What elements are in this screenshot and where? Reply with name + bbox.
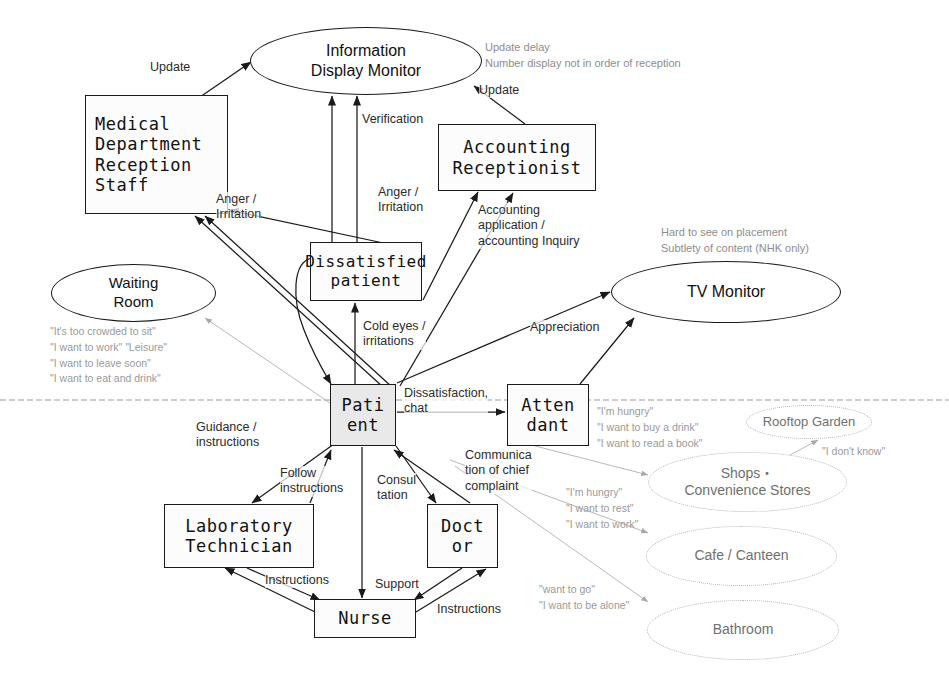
edge-label-instructions-lab: Instructions <box>265 573 329 588</box>
node-label: Information Display Monitor <box>311 41 421 81</box>
quote-dont-know-quote: "I don't know" <box>822 444 885 460</box>
edge-label-guidance-instructions: Guidance / instructions <box>196 420 259 451</box>
edge-label-update-accounting: Update <box>479 83 519 98</box>
node-bathroom[interactable]: Bathroom <box>647 600 839 660</box>
node-accounting-receptionist[interactable]: Accounting Receptionist <box>438 124 596 191</box>
edge-label-dissatisfaction-chat: Dissatisfaction, chat <box>404 386 488 417</box>
node-tv-monitor[interactable]: TV Monitor <box>611 261 841 323</box>
edge-label-accounting-application: Accounting application / accounting Inqu… <box>478 203 579 249</box>
node-patient[interactable]: Pati ent <box>330 384 396 446</box>
node-label: Cafe / Canteen <box>694 547 788 565</box>
edge-label-cold-eyes-irritations: Cold eyes / irritations <box>363 319 426 350</box>
quote-attendant-quotes: "I'm hungry" "I want to buy a drink" "I … <box>597 404 703 451</box>
edge-label-consultation: Consul tation <box>377 473 416 504</box>
node-laboratory-technician[interactable]: Laboratory Technician <box>164 504 314 568</box>
node-label: Shops・ Convenience Stores <box>684 465 810 500</box>
quote-bathroom-quotes: "want to go" "I want to be alone" <box>539 582 629 614</box>
edge-label-update-reception: Update <box>150 60 190 75</box>
node-shops-convenience-stores[interactable]: Shops・ Convenience Stores <box>648 452 847 512</box>
node-label: Dissatisfied patient <box>305 253 427 291</box>
node-medical-department-reception-staff[interactable]: Medical Department Reception Staff <box>85 95 228 214</box>
quote-waiting-room-quotes: "It's too crowded to sit" "I want to wor… <box>50 324 167 387</box>
node-label: Pati ent <box>342 395 385 435</box>
node-label: Waiting Room <box>109 274 158 312</box>
node-label: TV Monitor <box>687 282 765 302</box>
edge-label-communication-chief-complaint: Communica tion of chief complaint <box>465 448 532 494</box>
node-information-display-monitor[interactable]: Information Display Monitor <box>250 27 482 95</box>
node-label: Doct or <box>441 516 484 556</box>
edge-label-appreciation: Appreciation <box>530 320 600 335</box>
edge-label-instructions-doctor: Instructions <box>437 602 501 617</box>
edge-label-follow-instructions: Follow instructions <box>280 466 343 497</box>
diagram-canvas: Information Display MonitorMedical Depar… <box>0 0 949 684</box>
node-dissatisfied-patient[interactable]: Dissatisfied patient <box>310 242 422 301</box>
node-attendant[interactable]: Atten dant <box>507 384 589 446</box>
node-label: Medical Department Reception Staff <box>95 114 202 194</box>
node-rooftop-garden[interactable]: Rooftop Garden <box>746 405 872 439</box>
edge-label-anger-irritation-right: Anger / Irritation <box>378 185 423 216</box>
node-waiting-room[interactable]: Waiting Room <box>51 264 216 322</box>
node-label: Laboratory Technician <box>185 516 292 556</box>
node-label: Bathroom <box>713 621 774 639</box>
node-nurse[interactable]: Nurse <box>314 599 416 638</box>
node-doctor[interactable]: Doct or <box>427 504 498 568</box>
node-label: Accounting Receptionist <box>453 137 582 177</box>
node-label: Nurse <box>338 608 392 628</box>
node-label: Atten dant <box>521 395 575 435</box>
edge-label-verification: Verification <box>362 112 423 127</box>
note-tv-monitor-problems-note: Hard to see on placement Subtlety of con… <box>661 225 809 257</box>
node-cafe-canteen[interactable]: Cafe / Canteen <box>646 526 837 586</box>
edge-label-anger-irritation-left: Anger / Irritation <box>216 192 261 223</box>
quote-shops-quotes: "I'm hungry" "I want to rest" "I want to… <box>566 485 638 532</box>
edge-label-support: Support <box>375 577 419 592</box>
node-label: Rooftop Garden <box>763 414 856 430</box>
note-monitor-problems-note: Update delay Number display not in order… <box>485 40 681 72</box>
